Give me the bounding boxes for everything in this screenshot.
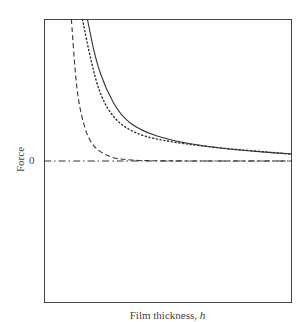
series-layer (45, 20, 292, 162)
x-axis-label: Film thickness, h (44, 309, 291, 321)
x-axis-label-variable: h (200, 309, 206, 321)
series-dotted-line (83, 20, 292, 155)
y-axis-label: Force (10, 148, 30, 172)
force-vs-thickness-chart (0, 0, 305, 322)
series-solid-line (87, 20, 291, 155)
series-dashed-line (71, 20, 291, 162)
y-tick-zero: 0 (29, 154, 35, 166)
x-axis-label-text: Film thickness, (130, 309, 200, 321)
